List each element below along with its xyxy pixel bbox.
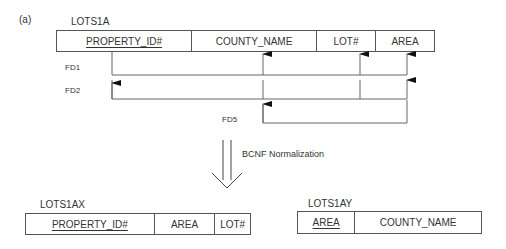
lots1ax-attribute-area: AREA [155,214,215,234]
lots1ay-attribute-county-name: COUNTY_NAME [355,212,481,233]
normalization-arrow-icon [212,140,242,188]
lots1ay-attribute-area: AREA [298,212,355,233]
lots1ax-attribute-lot: LOT# [215,214,250,234]
lots1ax-attribute-property-id: PROPERTY_ID# [26,214,155,234]
result-relation-y-table: AREA COUNTY_NAME [297,211,482,234]
result-relation-x-name: LOTS1AX [40,199,85,210]
result-relation-y-name: LOTS1AY [308,198,352,209]
result-relation-x-table: PROPERTY_ID# AREA LOT# [25,213,251,235]
bcnf-normalization-label: BCNF Normalization [242,149,324,159]
fd1-arrows [112,52,407,75]
fd2-arrows [112,80,407,99]
fd5-arrows [263,100,407,123]
